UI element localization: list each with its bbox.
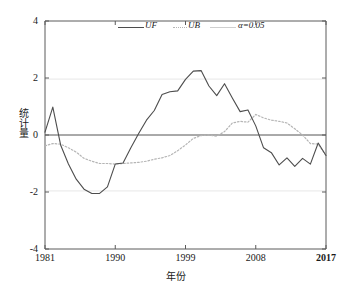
y-tick-label: 4 <box>16 15 38 26</box>
legend-swatch-ub <box>173 27 187 28</box>
y-tick-label: -2 <box>16 186 38 197</box>
series-line-uf <box>45 71 326 194</box>
legend-swatch-uf <box>118 27 144 28</box>
legend-label-ub: UB <box>188 20 200 30</box>
y-axis-title: 统计量 <box>12 108 28 138</box>
chart-legend: UF UB α=0.05 <box>118 20 278 34</box>
x-tick-label: 1999 <box>163 252 209 263</box>
y-tick-label: 2 <box>16 72 38 83</box>
legend-label-uf: UF <box>145 20 157 30</box>
series-line-ub <box>45 114 326 164</box>
x-tick-label: 2008 <box>233 252 279 263</box>
legend-label-alpha: α=0.05 <box>238 20 265 30</box>
x-tick-label: 2017 <box>303 252 349 263</box>
x-tick-label: 1981 <box>22 252 68 263</box>
chart-canvas <box>0 0 351 294</box>
x-tick-label: 1990 <box>92 252 138 263</box>
mann-kendall-chart: UF UB α=0.05 420-2-4 1981199019992008201… <box>0 0 351 294</box>
x-axis-title: 年份 <box>0 268 351 283</box>
legend-swatch-alpha <box>210 27 236 28</box>
